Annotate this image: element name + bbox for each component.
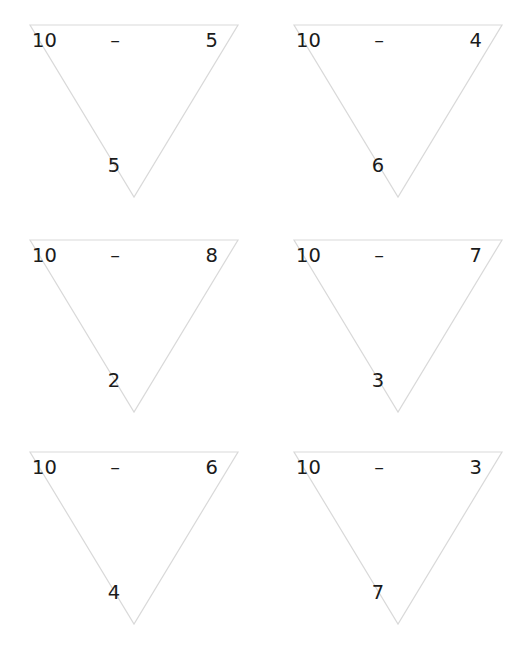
answer-value-5[interactable]: 4 xyxy=(14,583,214,603)
minuend-value-2: 10 xyxy=(296,31,321,51)
subtrahend-value-3: 8 xyxy=(205,246,218,266)
number-triangle-4[interactable]: 10 – 7 3 xyxy=(278,223,510,423)
minus-operator-5: – xyxy=(100,458,130,478)
minus-operator-2: – xyxy=(364,31,394,51)
minus-operator-3: – xyxy=(100,246,130,266)
number-triangle-5[interactable]: 10 – 6 4 xyxy=(14,435,246,635)
minuend-value-5: 10 xyxy=(32,458,57,478)
subtrahend-value-2: 4 xyxy=(469,31,482,51)
minuend-value-4: 10 xyxy=(296,246,321,266)
subtrahend-value-6: 3 xyxy=(469,458,482,478)
number-triangle-2[interactable]: 10 – 4 6 xyxy=(278,8,510,208)
minuend-value-3: 10 xyxy=(32,246,57,266)
number-triangle-6[interactable]: 10 – 3 7 xyxy=(278,435,510,635)
subtrahend-value-5: 6 xyxy=(205,458,218,478)
answer-value-4[interactable]: 3 xyxy=(278,371,478,391)
minuend-value-6: 10 xyxy=(296,458,321,478)
answer-value-1[interactable]: 5 xyxy=(14,156,214,176)
minuend-value-1: 10 xyxy=(32,31,57,51)
number-triangle-1[interactable]: 10 – 5 5 xyxy=(14,8,246,208)
minus-operator-6: – xyxy=(364,458,394,478)
number-triangle-3[interactable]: 10 – 8 2 xyxy=(14,223,246,423)
subtrahend-value-1: 5 xyxy=(205,31,218,51)
minus-operator-1: – xyxy=(100,31,130,51)
answer-value-3[interactable]: 2 xyxy=(14,371,214,391)
answer-value-6[interactable]: 7 xyxy=(278,583,478,603)
subtrahend-value-4: 7 xyxy=(469,246,482,266)
worksheet-canvas: 10 – 5 5 10 – 4 6 10 – 8 2 10 – 7 3 xyxy=(0,0,526,665)
minus-operator-4: – xyxy=(364,246,394,266)
answer-value-2[interactable]: 6 xyxy=(278,156,478,176)
